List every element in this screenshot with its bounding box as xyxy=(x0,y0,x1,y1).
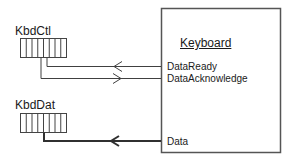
signal-label-data: Data xyxy=(167,137,188,147)
keyboard-interface-diagram: KbdCtl KbdDat Keyboard DataReady DataAck… xyxy=(0,0,291,162)
signal-label-dataacknowledge: DataAcknowledge xyxy=(167,74,248,84)
kbddat-register xyxy=(21,114,67,133)
kbdctl-label: KbdCtl xyxy=(15,25,51,37)
kbddat-label: KbdDat xyxy=(15,99,55,111)
keyboard-title: Keyboard xyxy=(180,37,231,49)
signal-label-dataready: DataReady xyxy=(167,62,217,72)
data-bus-wire xyxy=(44,133,161,147)
dataready-wire xyxy=(47,58,161,72)
kbdctl-register xyxy=(21,39,67,58)
dataacknowledge-wire xyxy=(41,58,161,84)
